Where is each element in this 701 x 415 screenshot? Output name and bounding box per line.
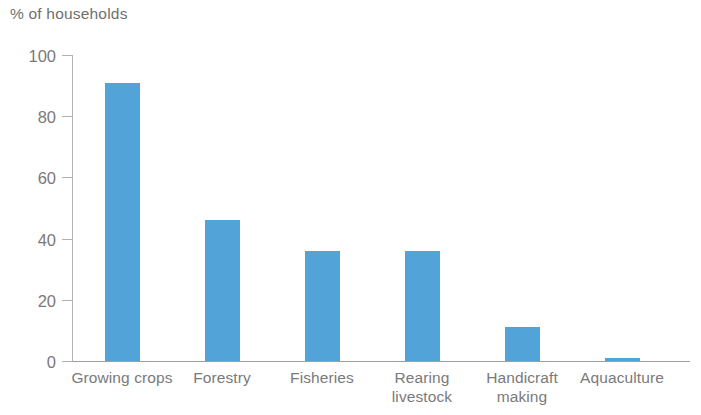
y-axis-tick-label-text: 100 xyxy=(28,47,56,66)
bar xyxy=(605,358,640,361)
x-axis-category-label: Handicraft making xyxy=(467,368,577,406)
bar xyxy=(505,327,540,361)
y-axis-tick xyxy=(62,300,73,301)
bar xyxy=(405,251,440,361)
y-axis-tick-label-text: 20 xyxy=(38,292,56,311)
x-axis-category-label: Growing crops xyxy=(67,368,177,387)
x-axis-category-label: Fisheries xyxy=(267,368,377,387)
plot-area: 020406080100 Growing cropsForestryFisher… xyxy=(0,0,701,415)
bar xyxy=(105,83,140,361)
x-axis-category-label: Aquaculture xyxy=(567,368,677,387)
y-axis-tick-label-text: 60 xyxy=(38,169,56,188)
bar xyxy=(305,251,340,361)
y-axis-tick xyxy=(62,239,73,240)
bar xyxy=(205,220,240,361)
y-axis-tick-label-text: 80 xyxy=(38,108,56,127)
x-axis-category-label: Rearing livestock xyxy=(367,368,477,406)
bar-chart: % of households 020406080100 Growing cro… xyxy=(0,0,701,415)
y-axis-tick xyxy=(62,177,73,178)
y-axis-tick xyxy=(62,55,73,56)
y-axis-tick xyxy=(62,116,73,117)
x-axis-line xyxy=(72,361,690,362)
y-axis-tick-label-text: 40 xyxy=(38,231,56,250)
y-axis-tick-label-text: 0 xyxy=(47,353,56,372)
x-axis-category-label: Forestry xyxy=(167,368,277,387)
y-axis-tick xyxy=(62,361,73,362)
y-axis-line xyxy=(72,55,73,362)
